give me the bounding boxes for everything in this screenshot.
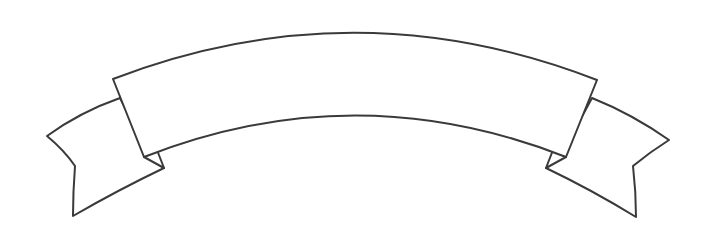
- ribbon-main-band: [113, 33, 597, 157]
- ribbon-banner: [0, 0, 714, 246]
